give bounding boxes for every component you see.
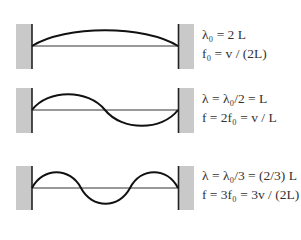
right-wall	[179, 24, 194, 69]
wave-mode-1	[32, 30, 178, 46]
left-wall	[16, 88, 32, 133]
right-wall	[179, 88, 194, 133]
mode-1-figure	[16, 24, 194, 69]
mode-2-figure	[16, 88, 194, 133]
mode-3-frequency: f = 3f₀ = 3v / (2L)	[202, 186, 299, 203]
left-wall	[16, 166, 32, 210]
mode-2-wavelength: λ = λ₀/2 = L	[202, 90, 267, 107]
mode-2-frequency: f = 2f₀ = v / L	[202, 109, 277, 126]
mode-3-wavelength: λ = λ₀/3 = (2/3) L	[202, 167, 297, 184]
mode-3-figure	[16, 166, 194, 210]
mode-1-frequency: f₀ = v / (2L)	[202, 45, 267, 62]
right-wall	[179, 166, 194, 210]
mode-1-wavelength: λ₀ = 2 L	[202, 26, 246, 43]
left-wall	[16, 24, 32, 69]
